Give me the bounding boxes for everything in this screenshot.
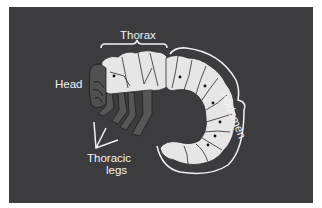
head-label: Head xyxy=(55,78,83,90)
larva-illustration xyxy=(0,0,322,208)
thoracic-legs-label-line1: Thoracic xyxy=(87,152,131,164)
larva-head xyxy=(89,64,106,108)
thoracic-legs-label-line2: legs xyxy=(106,164,127,176)
thorax-bracket xyxy=(101,40,167,48)
legs-pointer-lines xyxy=(94,122,118,148)
thorax-label: Thorax xyxy=(120,29,156,41)
